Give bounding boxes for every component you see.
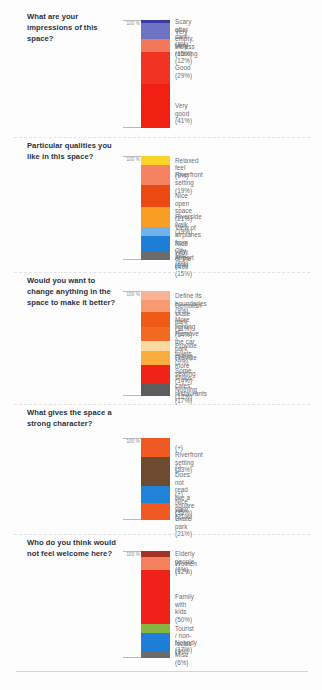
y-axis: 100 % xyxy=(119,438,141,520)
bar-segment[interactable] xyxy=(141,557,170,570)
bar-segment[interactable] xyxy=(141,23,170,39)
bar-segment[interactable] xyxy=(141,207,170,227)
section-divider xyxy=(14,137,310,138)
axis-label-100-percent: 100 % xyxy=(126,439,140,444)
legend-item: Good (29%) xyxy=(175,64,192,79)
question-body: What are your impressions of this space?… xyxy=(0,8,322,128)
bar-segment[interactable] xyxy=(141,633,170,651)
bar-segment[interactable] xyxy=(141,327,170,342)
question-title: Who do you think would not feel welcome … xyxy=(27,534,119,559)
section-divider xyxy=(14,404,310,405)
bar-segment[interactable] xyxy=(141,624,170,634)
bar-segment[interactable] xyxy=(141,351,170,366)
bar-segment[interactable] xyxy=(141,185,170,207)
question-body: Would you want to change anything in the… xyxy=(0,272,322,396)
bar-segment[interactable] xyxy=(141,652,170,658)
bar-segment[interactable] xyxy=(141,236,170,252)
y-axis: 100 % xyxy=(119,291,141,396)
bar-segment[interactable] xyxy=(141,570,170,624)
bar-segment[interactable] xyxy=(141,52,170,83)
question-block-4: What gives the space a strong character?… xyxy=(0,404,322,520)
legend-item: Misc (8%) xyxy=(175,252,188,267)
bar-segment[interactable] xyxy=(141,156,170,165)
question-block-3: Would you want to change anything in the… xyxy=(0,272,322,396)
legend-item: Family with kids (50%) xyxy=(175,593,194,623)
question-body: Who do you think would not feel welcome … xyxy=(0,534,322,658)
legend-item: Very relaxing (12%) xyxy=(175,42,197,65)
question-title: Would you want to change anything in the… xyxy=(27,272,119,309)
bar-segment[interactable] xyxy=(141,252,170,260)
axis-tick-bottom xyxy=(123,395,141,396)
bar-segment[interactable] xyxy=(141,312,170,327)
bar-segment[interactable] xyxy=(141,291,170,300)
y-axis: 100 % xyxy=(119,551,141,658)
legend-item: Nothing (12%) xyxy=(175,386,197,401)
bar-stack xyxy=(141,291,170,396)
question-block-2: Particular qualities you like in this sp… xyxy=(0,137,322,260)
y-axis: 100 % xyxy=(119,20,141,128)
bottom-divider xyxy=(16,671,308,672)
bar-segment[interactable] xyxy=(141,486,170,503)
bar-segment[interactable] xyxy=(141,383,170,396)
bar-segment[interactable] xyxy=(141,165,170,185)
legend-item: Women (12%) xyxy=(175,560,197,575)
legend-item: Very good (41%) xyxy=(175,102,192,125)
axis-label-100-percent: 100 % xyxy=(126,552,140,557)
axis-label-100-percent: 100 % xyxy=(126,21,140,26)
bar-stack xyxy=(141,551,170,658)
bar-segment[interactable] xyxy=(141,341,170,350)
top-cut-off-text xyxy=(22,1,302,8)
bar-stack xyxy=(141,156,170,260)
stacked-bar-chart: 100 %Scary after dark (3%)Very empty, li… xyxy=(119,20,175,128)
survey-results-page: What are your impressions of this space?… xyxy=(0,0,322,690)
bar-stack xyxy=(141,438,170,520)
section-divider xyxy=(14,534,310,535)
question-title: What are your impressions of this space? xyxy=(27,8,119,45)
stacked-bar-chart: 100 %Elderly people (6%)Women (12%)Famil… xyxy=(119,551,175,658)
bar-segment[interactable] xyxy=(141,300,170,312)
bar-segment[interactable] xyxy=(141,227,170,236)
question-title: Particular qualities you like in this sp… xyxy=(27,137,119,162)
axis-tick-bottom xyxy=(123,127,141,128)
axis-label-100-percent: 100 % xyxy=(126,292,140,297)
bar-segment[interactable] xyxy=(141,503,170,520)
stacked-bar-chart: 100 %Define its boundaries (9%)Demolish … xyxy=(119,291,175,396)
bar-stack xyxy=(141,20,170,128)
axis-tick-bottom xyxy=(123,519,141,520)
bar-segment[interactable] xyxy=(141,457,170,486)
bar-segment[interactable] xyxy=(141,39,170,52)
question-body: What gives the space a strong character?… xyxy=(0,404,322,520)
axis-label-100-percent: 100 % xyxy=(126,157,140,162)
question-body: Particular qualities you like in this sp… xyxy=(0,137,322,260)
question-block-1: What are your impressions of this space?… xyxy=(0,8,322,128)
legend-item: Misc (6%) xyxy=(175,651,188,666)
question-title: What gives the space a strong character? xyxy=(27,404,119,429)
axis-tick-bottom xyxy=(123,657,141,658)
axis-tick-bottom xyxy=(123,259,141,260)
section-divider xyxy=(14,272,310,273)
y-axis: 100 % xyxy=(119,156,141,260)
bar-segment[interactable] xyxy=(141,84,170,128)
stacked-bar-chart: 100 %(+) Riverfront setting (23%)(-) Doe… xyxy=(119,438,175,520)
stacked-bar-chart: 100 %Relaxed feel (9%)Riverfront setting… xyxy=(119,156,175,260)
legend-item: Riverfront setting (19%) xyxy=(175,171,203,194)
question-block-5: Who do you think would not feel welcome … xyxy=(0,534,322,658)
bar-segment[interactable] xyxy=(141,365,170,383)
bar-segment[interactable] xyxy=(141,438,170,457)
